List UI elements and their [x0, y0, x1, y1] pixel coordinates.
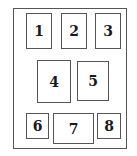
panel-4: 4: [37, 60, 71, 103]
panel-3: 3: [95, 13, 121, 49]
panel-5: 5: [77, 61, 109, 101]
panel-label: 5: [88, 73, 98, 89]
panel-2: 2: [61, 13, 87, 49]
panel-7: 7: [53, 113, 94, 144]
panel-label: 1: [34, 23, 44, 39]
panel-label: 7: [69, 121, 79, 137]
panel-label: 3: [103, 23, 113, 39]
panel-label: 2: [69, 23, 79, 39]
panel-6: 6: [26, 113, 49, 139]
panel-8: 8: [97, 113, 121, 139]
panel-label: 8: [104, 118, 114, 134]
panel-1: 1: [26, 13, 52, 49]
panel-label: 6: [33, 118, 43, 134]
panel-label: 4: [49, 74, 59, 90]
cropped-caption-text: [0, 0, 137, 2]
